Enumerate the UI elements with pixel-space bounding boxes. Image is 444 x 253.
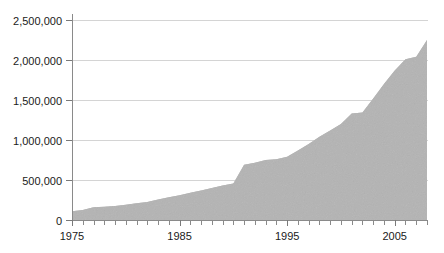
x-tick-label-2005: 2005 [382, 230, 406, 242]
y-tick-label-0: 0 [56, 215, 62, 227]
y-tick-label-2500000: 2,500,000 [13, 15, 62, 27]
chart-canvas: 0500,0001,000,0001,500,0002,000,0002,500… [0, 0, 444, 253]
y-tick-label-2000000: 2,000,000 [13, 55, 62, 67]
area-chart: 0500,0001,000,0001,500,0002,000,0002,500… [0, 0, 444, 253]
x-tick-label-1995: 1995 [275, 230, 299, 242]
x-tick-label-1985: 1985 [167, 230, 191, 242]
y-tick-label-500000: 500,000 [22, 175, 62, 187]
y-tick-label-1000000: 1,000,000 [13, 135, 62, 147]
y-tick-label-1500000: 1,500,000 [13, 95, 62, 107]
x-tick-label-1975: 1975 [60, 230, 84, 242]
